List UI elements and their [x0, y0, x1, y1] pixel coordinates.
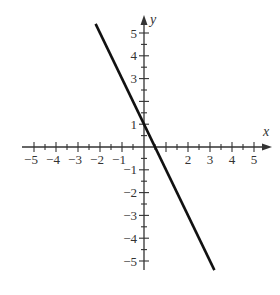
y-tick-label: 3 [131, 71, 138, 86]
y-tick-label: −2 [123, 185, 137, 200]
x-tick-label: 3 [207, 152, 214, 167]
x-tick-label: −2 [90, 152, 104, 167]
x-axis-label: x [262, 124, 270, 139]
x-tick-label: 2 [185, 152, 192, 167]
y-tick-label: −1 [123, 162, 137, 177]
y-tick-label: −3 [123, 208, 137, 223]
y-tick-label: −4 [123, 231, 137, 246]
line-graph: −5−4−3−2−12345−5−4−3−2−11345 x y [0, 0, 280, 295]
x-tick-label: 5 [251, 152, 258, 167]
x-tick-label: 4 [229, 152, 236, 167]
y-axis-arrow-icon [141, 15, 148, 25]
x-tick-label: −3 [68, 152, 82, 167]
y-tick-label: −5 [123, 254, 137, 269]
y-tick-label: 1 [131, 117, 138, 132]
y-tick-label: 4 [131, 48, 138, 63]
axes [22, 15, 272, 270]
y-axis-label: y [148, 12, 157, 27]
x-tick-label: −5 [24, 152, 38, 167]
y-tick-label: 5 [131, 26, 138, 41]
x-tick-label: −4 [46, 152, 60, 167]
x-axis-arrow-icon [262, 144, 272, 151]
